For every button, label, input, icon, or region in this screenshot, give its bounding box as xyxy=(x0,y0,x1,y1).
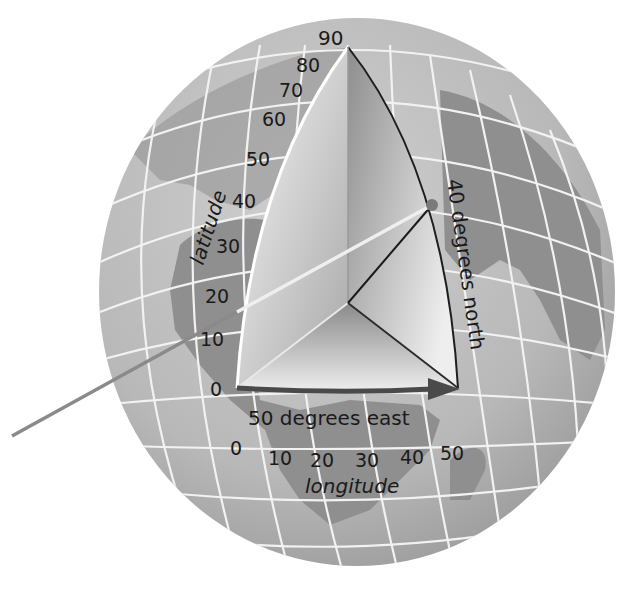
lon-tick-10: 10 xyxy=(268,447,292,469)
lon-tick-30: 30 xyxy=(355,449,379,471)
lon-tick-0: 0 xyxy=(230,437,242,459)
globe-svg: 0 10 20 30 40 50 60 70 80 90 latitude 40… xyxy=(0,0,630,597)
globe-diagram: 0 10 20 30 40 50 60 70 80 90 latitude 40… xyxy=(0,0,630,597)
lat-tick-60: 60 xyxy=(262,108,286,130)
lon-tick-40: 40 xyxy=(400,446,424,468)
east-annotation: 50 degrees east xyxy=(248,406,410,430)
lat-tick-40: 40 xyxy=(232,190,256,212)
lat-tick-70: 70 xyxy=(279,79,303,101)
lat-tick-90: 90 xyxy=(318,26,343,50)
lat-tick-50: 50 xyxy=(246,148,270,170)
lat-tick-10: 10 xyxy=(200,328,224,350)
lat-tick-20: 20 xyxy=(205,285,229,307)
longitude-label: longitude xyxy=(305,474,399,498)
lon-tick-20: 20 xyxy=(310,449,334,471)
location-point xyxy=(426,199,438,211)
lat-tick-30: 30 xyxy=(216,235,240,257)
lon-tick-50: 50 xyxy=(440,442,464,464)
lat-tick-0: 0 xyxy=(210,378,222,400)
lat-tick-80: 80 xyxy=(296,54,320,76)
